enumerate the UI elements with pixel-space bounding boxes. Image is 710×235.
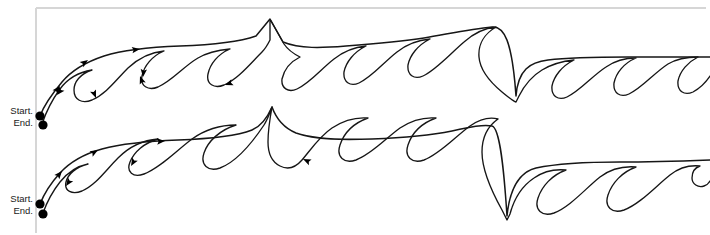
lower-end-label: End. (0, 205, 33, 217)
lower-start-marker (35, 199, 44, 208)
arrow-head-icon (63, 178, 73, 188)
upper-start-marker (35, 111, 44, 120)
upper-end-marker (38, 120, 47, 129)
lower-outbound-path (40, 107, 710, 216)
lower-end-marker (38, 209, 47, 218)
upper-trace-group (35, 19, 710, 130)
lower-trace-labels: Start. End. (0, 193, 33, 216)
lower-trace-group (35, 107, 710, 220)
upper-trace-labels: Start. End. (0, 105, 33, 128)
lower-return-path (43, 107, 710, 220)
trajectory-figure: Start. End. Start. End. (0, 0, 710, 235)
upper-end-label: End. (0, 117, 33, 129)
upper-start-label: Start. (0, 105, 33, 117)
upper-outbound-path (40, 19, 710, 116)
lower-start-label: Start. (0, 193, 33, 205)
arrow-head-icon (302, 156, 312, 165)
upper-outbound-arrows (53, 46, 141, 94)
arrow-head-icon (89, 147, 99, 157)
trajectory-plot (0, 0, 710, 235)
plot-frame (36, 8, 706, 233)
